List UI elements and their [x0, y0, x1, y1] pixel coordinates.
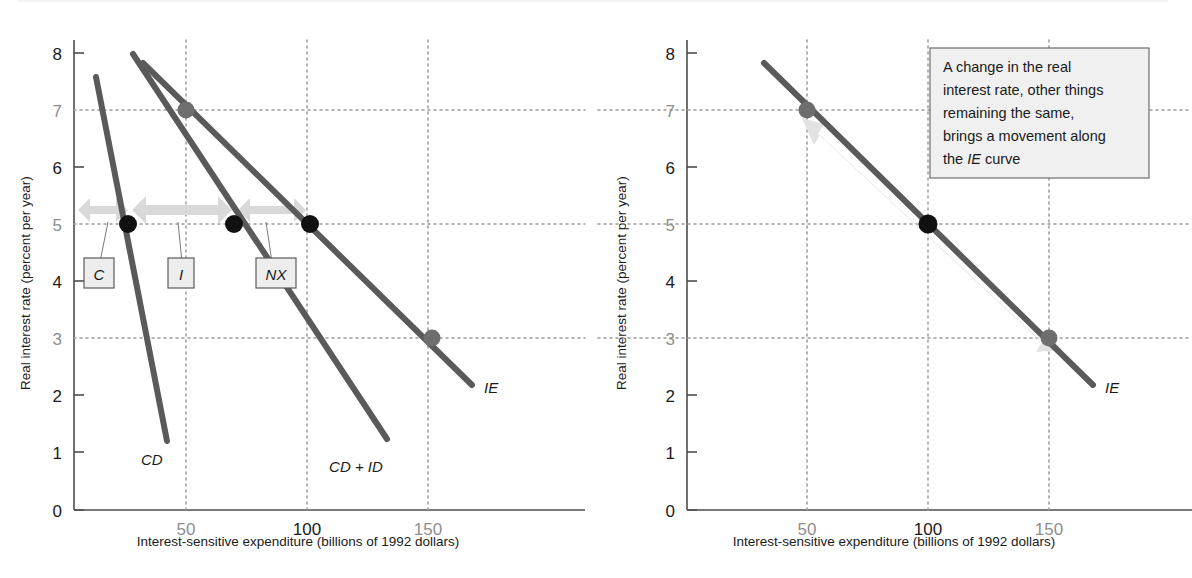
panel-a-y-axis-label: Real interest rate (percent per year)	[18, 176, 33, 390]
panel-a-xtick-50: 50	[177, 520, 196, 539]
panel-a-span-arrows	[78, 196, 306, 224]
panel-b-ie-label: IE	[1105, 379, 1120, 396]
panel-a-ytick-5: 5	[53, 216, 62, 235]
panel-a: Real interest rate (percent per year) In…	[0, 0, 596, 578]
panel-a-ytick-4: 4	[53, 273, 62, 292]
component-i-label: I	[179, 266, 183, 283]
marker-ie-r3	[1041, 330, 1058, 347]
component-nx-label: NX	[266, 266, 288, 283]
panel-a-ytick-1: 1	[53, 444, 62, 463]
panel-a-y-ticks	[74, 53, 84, 510]
component-box-c: C	[84, 258, 114, 288]
panel-a-ytick-6: 6	[53, 159, 62, 178]
note-line-3: remaining the same,	[943, 105, 1074, 121]
panel-b: Real interest rate (percent per year) In…	[596, 0, 1192, 578]
marker-ie-r7	[799, 102, 816, 119]
panel-a-cd-label: CD	[141, 451, 163, 468]
panel-b-ytick-6: 6	[666, 159, 675, 178]
panel-a-chart: Real interest rate (percent per year) In…	[0, 0, 596, 578]
note-line-1: A change in the real	[943, 59, 1071, 75]
panel-b-ytick-8: 8	[666, 45, 675, 64]
panel-b-xtick-50: 50	[798, 520, 817, 539]
panel-b-y-axis-label: Real interest rate (percent per year)	[614, 176, 629, 390]
panel-b-ytick-5: 5	[666, 216, 675, 235]
note-line-5: the IE curve	[943, 151, 1020, 167]
note-line-4: brings a movement along	[943, 128, 1106, 144]
figure-container: Real interest rate (percent per year) In…	[0, 0, 1192, 578]
panel-b-y-ticks	[687, 53, 697, 510]
marker-ie-r5	[919, 215, 938, 234]
panel-a-cd-id-label: CD + ID	[329, 458, 383, 475]
panel-b-xtick-100: 100	[914, 520, 942, 539]
panel-a-ytick-2: 2	[53, 387, 62, 406]
panel-b-ytick-4: 4	[666, 273, 675, 292]
panel-b-ytick-3: 3	[666, 330, 675, 349]
marker-cd-r5	[119, 215, 137, 233]
marker-ie-r3	[424, 330, 441, 347]
curve-cd-id	[133, 54, 387, 439]
panel-b-chart: Real interest rate (percent per year) In…	[596, 0, 1192, 578]
note-line-5-suffix: curve	[981, 151, 1021, 167]
marker-cdid-r5	[225, 215, 243, 233]
panel-a-ytick-3: 3	[53, 330, 62, 349]
panel-b-ytick-0: 0	[666, 502, 675, 521]
panel-a-ytick-7: 7	[53, 102, 62, 121]
marker-ie-r5	[301, 215, 319, 233]
marker-cdid-r7	[178, 102, 195, 119]
panel-a-xtick-150: 150	[414, 520, 442, 539]
panel-a-ytick-8: 8	[53, 45, 62, 64]
panel-b-xtick-150: 150	[1035, 520, 1063, 539]
panel-b-ytick-1: 1	[666, 444, 675, 463]
panel-b-ytick-2: 2	[666, 387, 675, 406]
note-line-5-italic: IE	[967, 151, 981, 167]
panel-b-x-axis-label: Interest-sensitive expenditure (billions…	[733, 534, 1056, 549]
panel-a-xtick-100: 100	[293, 520, 321, 539]
component-c-label: C	[94, 266, 105, 283]
panel-a-ie-label: IE	[484, 379, 499, 396]
note-line-2: interest rate, other things	[943, 82, 1103, 98]
component-box-nx: NX	[256, 258, 296, 288]
panel-a-gridlines-horizontal	[74, 110, 585, 338]
note-callout: A change in the real interest rate, othe…	[930, 48, 1149, 178]
component-box-i: I	[168, 258, 194, 288]
note-line-5-prefix: the	[943, 151, 967, 167]
panel-b-ytick-7: 7	[666, 102, 675, 121]
panel-a-ytick-0: 0	[53, 502, 62, 521]
